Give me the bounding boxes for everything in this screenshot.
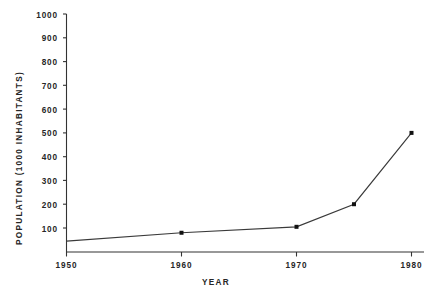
x-tick-label-1970: 1970 xyxy=(286,261,308,270)
data-point-1980 xyxy=(410,131,414,135)
y-tick-label-100: 100 xyxy=(42,225,58,234)
x-axis-title: YEAR xyxy=(202,278,230,287)
y-tick-label-800: 800 xyxy=(42,58,58,67)
y-tick-label-400: 400 xyxy=(42,153,58,162)
y-tick-label-1000: 1000 xyxy=(36,11,58,20)
y-axis-title: POPULATION (1000 INHABITANTS) xyxy=(15,71,24,245)
x-tick-label-1960: 1960 xyxy=(171,261,193,270)
y-tick-label-200: 200 xyxy=(42,201,58,210)
data-point-1970 xyxy=(295,225,299,229)
data-point-1975 xyxy=(352,202,356,206)
data-point-1960 xyxy=(180,231,184,235)
y-tick-label-600: 600 xyxy=(42,106,58,115)
chart-plot-area: 1000 900 800 700 600 500 400 300 200 100… xyxy=(0,0,434,293)
y-tick-label-300: 300 xyxy=(42,177,58,186)
y-tick-label-700: 700 xyxy=(42,82,58,91)
y-tick-label-900: 900 xyxy=(42,34,58,43)
x-tick-label-1980: 1980 xyxy=(401,261,423,270)
chart-background xyxy=(0,0,434,293)
y-tick-label-500: 500 xyxy=(42,129,58,138)
population-line-chart: 1000 900 800 700 600 500 400 300 200 100… xyxy=(0,0,434,293)
x-tick-label-1950: 1950 xyxy=(56,261,78,270)
